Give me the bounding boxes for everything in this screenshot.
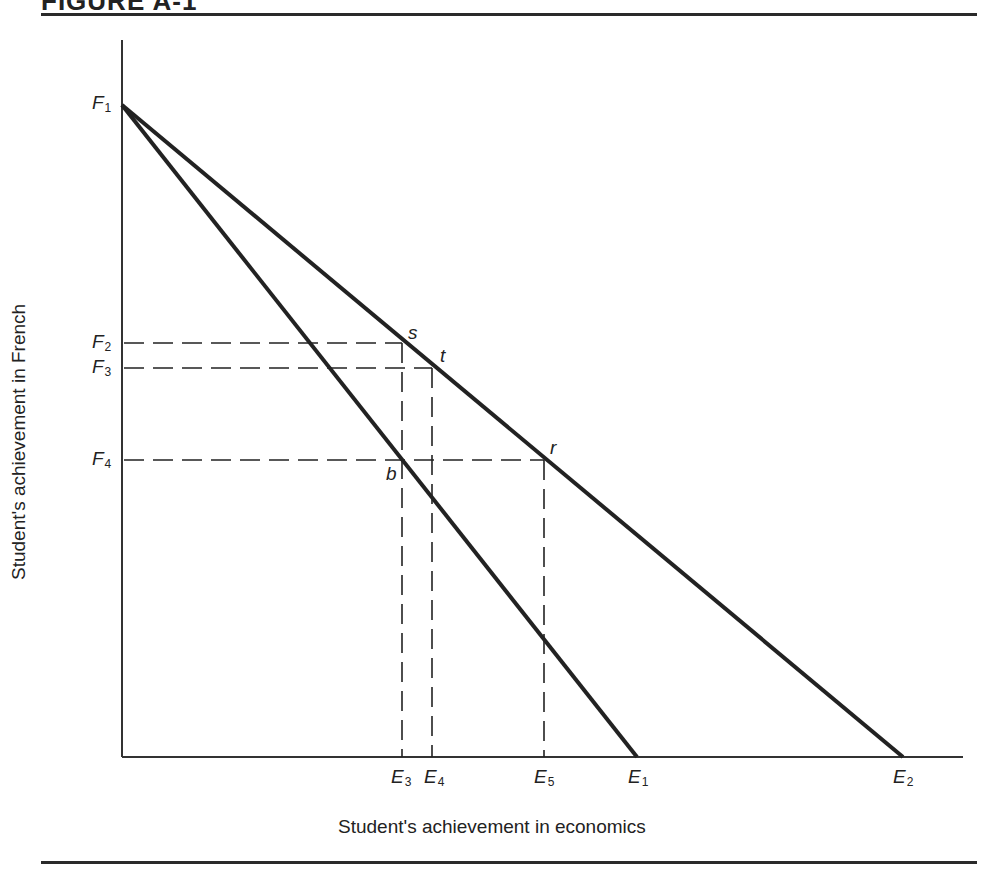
point-label-b: b <box>386 463 397 485</box>
x-tick-e4: E4 <box>424 766 444 789</box>
y-tick-f3: F3 <box>92 356 111 379</box>
frontier-f1-e2 <box>122 105 903 757</box>
x-tick-e2: E2 <box>893 766 913 789</box>
x-axis-title: Student's achievement in economics <box>338 816 646 838</box>
x-tick-e3: E3 <box>391 766 411 789</box>
y-tick-f4: F4 <box>92 448 111 471</box>
bottom-rule <box>41 861 977 864</box>
y-tick-f1: F1 <box>92 92 111 115</box>
chart-canvas <box>0 0 998 871</box>
point-label-t: t <box>440 345 445 367</box>
frontier-f1-e1 <box>122 105 637 757</box>
x-tick-e1: E1 <box>628 766 648 789</box>
y-axis-title-text: Student's achievement in French <box>8 304 30 580</box>
point-label-s: s <box>408 322 418 344</box>
y-tick-f2: F2 <box>92 331 111 354</box>
point-label-r: r <box>550 437 556 459</box>
x-tick-e5: E5 <box>534 766 554 789</box>
